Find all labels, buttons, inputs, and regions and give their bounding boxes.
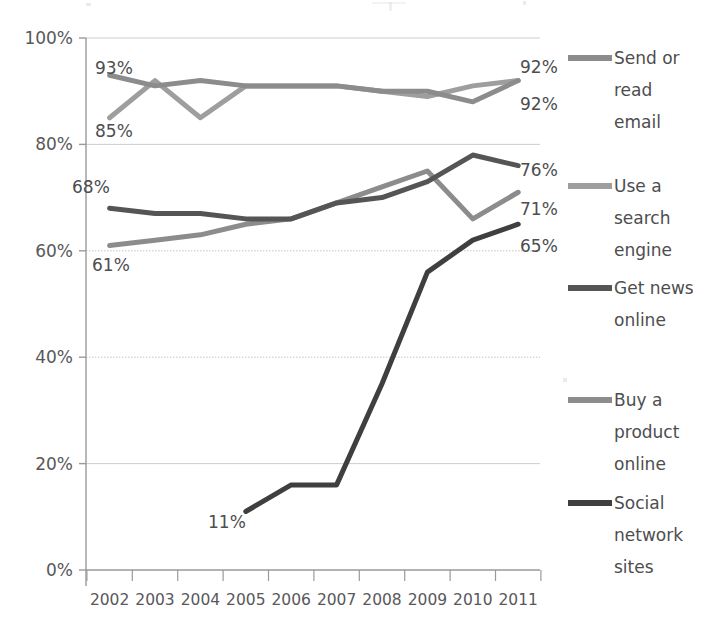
y-axis-tick-label: 100% [24, 28, 73, 48]
legend-item[interactable]: Get newsonline [568, 278, 694, 330]
x-axis-tick-label: 2006 [271, 591, 310, 609]
data-label-start: 11% [208, 512, 246, 532]
legend-item[interactable]: Use asearchengine [568, 176, 672, 260]
legend-label: search [614, 208, 670, 228]
chart-container: 100%80%60%40%20%0% 200220032004200520062… [0, 0, 716, 641]
legend-label: read [614, 80, 652, 100]
series-line [246, 224, 518, 511]
data-label-end: 71% [520, 199, 558, 219]
y-axis-tick-label: 80% [35, 134, 73, 154]
x-axis-tick-label: 2005 [226, 591, 265, 609]
legend-label: sites [614, 557, 654, 577]
x-axis-tick-label: 2010 [453, 591, 492, 609]
legend-label: Buy a [614, 390, 662, 410]
axes [79, 38, 540, 586]
data-label-end: 65% [520, 236, 558, 256]
data-label-start: 68% [72, 177, 110, 197]
legend-label: Get news [614, 278, 694, 298]
data-label-start: 93% [95, 58, 133, 78]
data-label-end: 92% [520, 94, 558, 114]
legend: Send orreademailUse asearchengineGet new… [568, 48, 694, 577]
legend-label: Send or [614, 48, 680, 68]
legend-label: product [614, 422, 680, 442]
x-axis-tick-label: 2008 [362, 591, 401, 609]
legend-label: Social [614, 493, 664, 513]
legend-label: online [614, 310, 666, 330]
legend-item[interactable]: Send orreademail [568, 48, 680, 132]
series-line [110, 155, 519, 219]
y-axis-tick-label: 60% [35, 241, 73, 261]
x-axis-tick-label: 2002 [90, 591, 129, 609]
series-lines [110, 75, 519, 511]
x-axis-tick-label: 2011 [498, 591, 537, 609]
x-axis-tick-label: 2004 [181, 591, 220, 609]
legend-label: online [614, 454, 666, 474]
y-axis-tick-label: 40% [35, 347, 73, 367]
x-axis-tick-label: 2003 [135, 591, 174, 609]
x-axis-ticks [87, 570, 541, 581]
chart-svg: 100%80%60%40%20%0% 200220032004200520062… [0, 0, 716, 641]
data-label-start: 85% [95, 121, 133, 141]
legend-label: email [614, 112, 661, 132]
data-label-end: 76% [520, 160, 558, 180]
x-axis-labels: 2002200320042005200620072008200920102011 [90, 591, 538, 609]
legend-label: Use a [614, 176, 662, 196]
legend-item[interactable]: Socialnetworksites [568, 493, 683, 577]
data-label-start: 61% [92, 255, 130, 275]
y-axis-labels: 100%80%60%40%20%0% [24, 28, 73, 580]
data-value-labels: 93%85%68%61%11%92%92%76%71%65% [72, 57, 558, 532]
x-axis-tick-label: 2007 [317, 591, 356, 609]
series-line [110, 171, 519, 245]
legend-item[interactable]: Buy aproductonline [568, 390, 680, 474]
legend-label: network [614, 525, 683, 545]
y-axis-tick-label: 0% [46, 560, 73, 580]
x-axis-tick-label: 2009 [408, 591, 447, 609]
legend-label: engine [614, 240, 672, 260]
y-axis-tick-label: 20% [35, 454, 73, 474]
data-label-end: 92% [520, 57, 558, 77]
